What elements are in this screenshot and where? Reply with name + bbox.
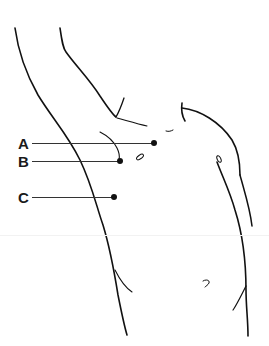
marker-dot-a <box>151 140 157 146</box>
nipple-mark <box>136 153 145 161</box>
navel-mark <box>203 280 209 287</box>
elbow-crease <box>116 98 124 117</box>
abdomen-fold <box>233 286 246 310</box>
body-outline-drawing <box>0 0 269 346</box>
inner-arm-contour <box>60 28 116 117</box>
axilla-mark <box>166 130 173 131</box>
leader-line-b <box>32 161 120 162</box>
axilla-line <box>117 118 147 126</box>
divider-band <box>0 235 269 236</box>
leader-line-c <box>32 197 114 198</box>
lateral-chest-arc <box>100 132 119 160</box>
marker-dot-c <box>111 194 117 200</box>
front-outer-contour <box>240 175 252 226</box>
marker-dot-b <box>117 158 123 164</box>
front-chest-contour <box>182 103 185 121</box>
leader-line-a <box>32 143 154 144</box>
label-a: A <box>18 136 29 151</box>
label-b: B <box>18 154 29 169</box>
back-contour <box>15 28 127 335</box>
front-chest-curve <box>182 108 240 175</box>
label-c: C <box>18 190 29 205</box>
anatomical-diagram: A B C <box>0 0 269 346</box>
